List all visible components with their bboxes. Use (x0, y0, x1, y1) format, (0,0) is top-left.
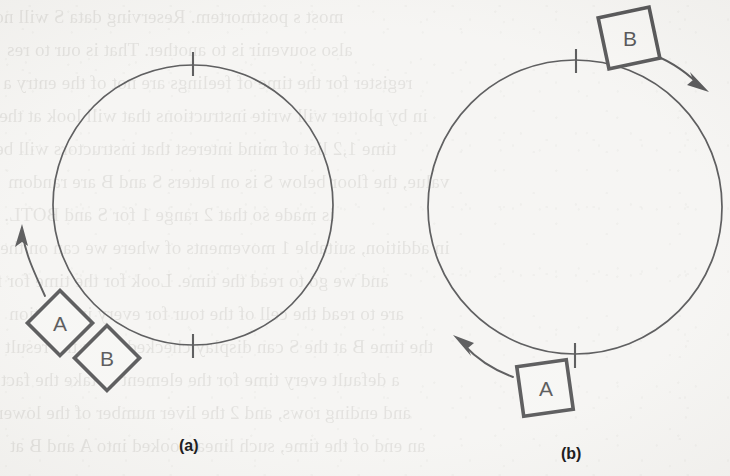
figure-svg: A B (0, 0, 730, 476)
panel-b-box-b-label: B (623, 27, 637, 50)
panel-b: B A (428, 7, 722, 416)
panel-a: A B (15, 52, 333, 391)
panel-b-box-a-label: A (539, 377, 553, 400)
panel-a-rotation-arrow (15, 224, 45, 296)
panel-b-circle (428, 60, 722, 354)
caption-panel-b: (b) (561, 445, 581, 463)
figure-canvas: most s postmortem. Reserving data S will… (0, 0, 730, 476)
figure-artwork: A B (0, 0, 730, 476)
panel-a-circle (53, 65, 333, 345)
panel-a-box-a-label: A (53, 312, 67, 335)
caption-panel-a: (a) (179, 437, 199, 455)
panel-a-box-b-label: B (100, 347, 114, 370)
panel-b-lower-left-arrow (453, 335, 513, 377)
